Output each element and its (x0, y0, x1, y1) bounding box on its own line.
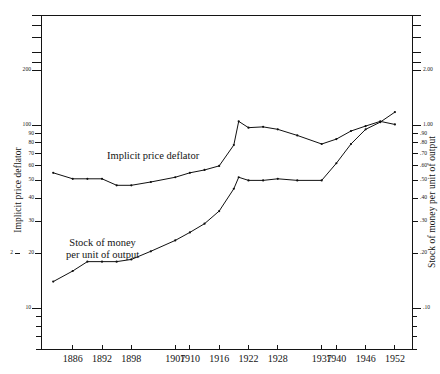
data-point (365, 128, 367, 130)
left-axis-secondary-tick-label: 2 (3, 249, 13, 255)
right-tick-label: .50 (420, 176, 440, 182)
x-tick-label: 1952 (373, 353, 417, 364)
data-point (262, 179, 264, 181)
left-tick-label: 10 (3, 304, 31, 310)
data-point (101, 178, 103, 180)
data-point (379, 121, 381, 123)
data-point (52, 281, 54, 283)
data-point (238, 120, 240, 122)
right-tick-label: .90 (420, 130, 440, 136)
data-point (218, 210, 220, 212)
money-annotation-line-1: Stock of money (66, 237, 139, 249)
data-point (335, 138, 337, 140)
left-tick-label: 30 (6, 217, 34, 223)
data-point (189, 231, 191, 233)
data-point (86, 178, 88, 180)
data-point (238, 176, 240, 178)
right-tick-label: .40 (420, 194, 440, 200)
data-point (116, 184, 118, 186)
data-point (189, 172, 191, 174)
right-tick-label: .60 (420, 162, 440, 168)
data-point (262, 126, 264, 128)
data-point (296, 134, 298, 136)
data-point (321, 179, 323, 181)
right-tick-label: .10 (423, 304, 440, 310)
left-tick-label: 50 (6, 176, 34, 182)
left-tick-label: 200 (3, 66, 31, 72)
x-axis-ticks (73, 345, 395, 349)
chart-canvas (0, 0, 440, 374)
data-point (277, 178, 279, 180)
data-point (321, 143, 323, 145)
left-tick-label: 80 (6, 139, 34, 145)
data-point (150, 181, 152, 183)
data-point (218, 165, 220, 167)
data-point (335, 162, 337, 164)
data-point (247, 127, 249, 129)
deflator-series-annotation: Implicit price deflator (107, 150, 199, 161)
money-series-annotation: Stock of money per unit of output (66, 237, 139, 261)
left-tick-label: 60 (6, 162, 34, 168)
right-tick-label: .70 (420, 150, 440, 156)
data-point (247, 179, 249, 181)
left-tick-label: 90 (6, 130, 34, 136)
data-point (233, 144, 235, 146)
data-point (72, 178, 74, 180)
right-tick-label: 1.00 (423, 121, 440, 127)
data-point (150, 250, 152, 252)
left-tick-label: 100 (3, 121, 31, 127)
data-point (52, 172, 54, 174)
data-point (365, 125, 367, 127)
data-point (394, 123, 396, 125)
right-tick-label: .30 (420, 217, 440, 223)
right-axis-title: Stock of money per unit of output (427, 122, 437, 282)
data-point (296, 179, 298, 181)
x-tick-label: 1928 (256, 353, 300, 364)
data-point (394, 111, 396, 113)
data-point (174, 239, 176, 241)
x-tick-label: 1898 (109, 353, 153, 364)
right-tick-label: .20 (420, 249, 440, 255)
right-tick-label: 2.00 (423, 66, 440, 72)
data-point (174, 176, 176, 178)
right-tick-label: .80 (420, 139, 440, 145)
data-point (72, 270, 74, 272)
axes-frame (41, 15, 412, 349)
data-point (130, 184, 132, 186)
chart-figure: Implicit price deflator Stock of money p… (0, 0, 440, 374)
data-point (277, 128, 279, 130)
data-point (350, 130, 352, 132)
data-point (350, 143, 352, 145)
data-point (203, 169, 205, 171)
data-point (233, 188, 235, 190)
left-tick-label: 70 (6, 150, 34, 156)
money-annotation-line-2: per unit of output (66, 249, 139, 261)
data-point (203, 223, 205, 225)
left-tick-label: 40 (6, 194, 34, 200)
